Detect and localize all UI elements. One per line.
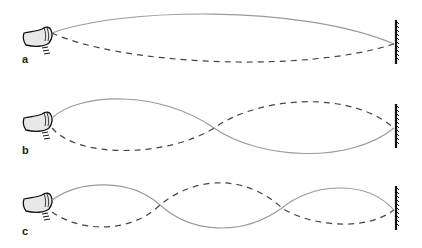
- wall-icon: [396, 186, 399, 230]
- wave-dashed: [52, 102, 394, 151]
- hand-icon: [23, 27, 52, 54]
- panel-label-c: c: [22, 225, 28, 237]
- wave-dashed: [52, 33, 394, 62]
- wave-dashed: [52, 183, 394, 227]
- wave-solid: [52, 14, 394, 44]
- wave-solid: [52, 99, 394, 154]
- wall-icon: [396, 104, 399, 148]
- hand-icon: [23, 193, 52, 220]
- standing-waves-diagram: [0, 0, 422, 248]
- wall-icon: [396, 20, 399, 64]
- hand-icon: [23, 112, 52, 139]
- panel-label-a: a: [22, 53, 28, 65]
- panel-label-b: b: [22, 144, 29, 156]
- panel-a: [23, 14, 399, 64]
- panel-b: [23, 99, 399, 154]
- wave-solid: [52, 185, 394, 228]
- panel-c: [23, 183, 399, 230]
